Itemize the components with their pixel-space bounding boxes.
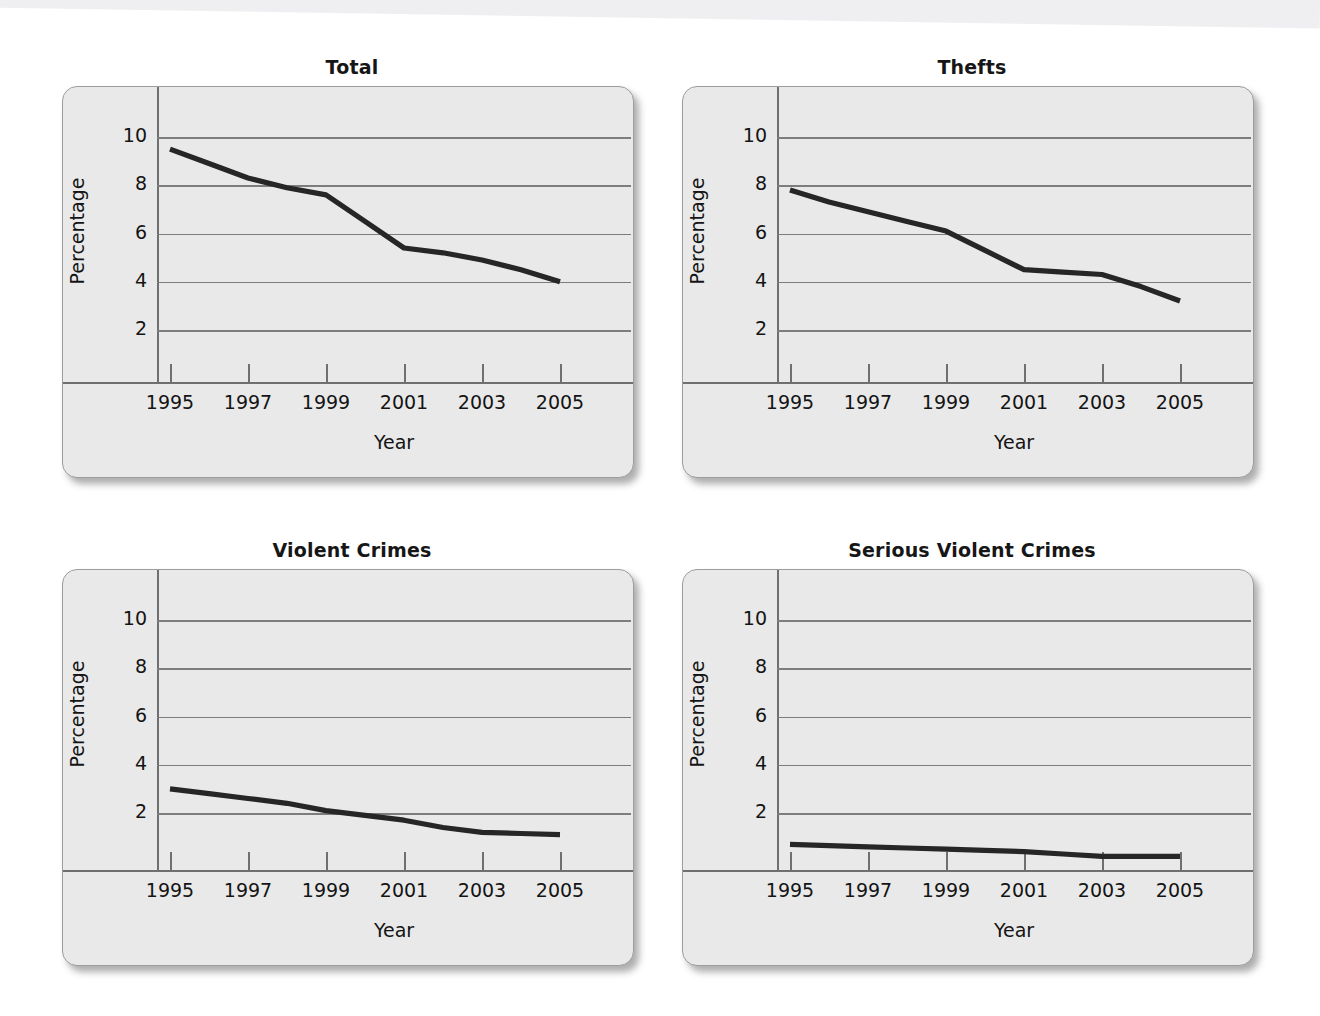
chart-panel-violent-crimes: Violent Crimes 2468101995199719992001200… bbox=[62, 538, 642, 966]
chart-title-total: Total bbox=[62, 55, 642, 79]
chart-panel-thefts: Thefts 246810199519971999200120032005Per… bbox=[682, 55, 1262, 478]
chart-title-serious-violent-crimes: Serious Violent Crimes bbox=[682, 538, 1262, 562]
data-line-total bbox=[63, 87, 633, 478]
data-line-violent-crimes bbox=[63, 570, 633, 966]
chart-title-thefts: Thefts bbox=[682, 55, 1262, 79]
plot-surface-thefts: 246810199519971999200120032005Percentage… bbox=[682, 86, 1254, 478]
data-line-serious-violent-crimes bbox=[683, 570, 1253, 966]
plot-surface-violent-crimes: 246810199519971999200120032005Percentage… bbox=[62, 569, 634, 966]
plot-surface-serious-violent-crimes: 246810199519971999200120032005Percentage… bbox=[682, 569, 1254, 966]
plot-surface-total: 246810199519971999200120032005Percentage… bbox=[62, 86, 634, 478]
chart-panel-serious-violent-crimes: Serious Violent Crimes 24681019951997199… bbox=[682, 538, 1262, 966]
data-line-thefts bbox=[683, 87, 1253, 478]
chart-panel-total: Total 246810199519971999200120032005Perc… bbox=[62, 55, 642, 478]
chart-title-violent-crimes: Violent Crimes bbox=[62, 538, 642, 562]
